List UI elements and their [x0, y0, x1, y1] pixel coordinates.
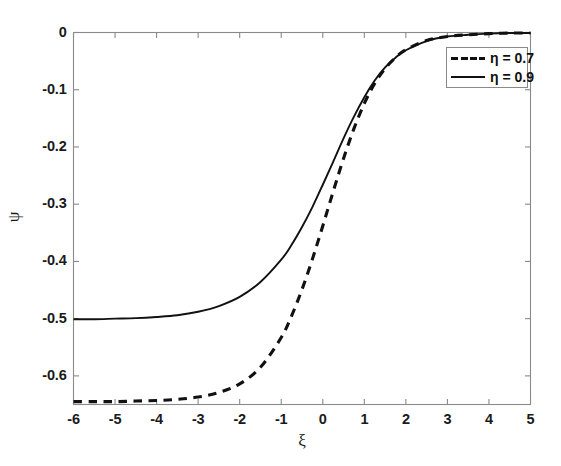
x-tick-label: 3: [429, 411, 465, 427]
legend: η = 0.7 η = 0.9: [446, 47, 528, 88]
figure-chart: -6-5-4-3-2-1012345 0-0.1-0.2-0.3-0.4-0.5…: [0, 0, 561, 466]
axes-frame: [74, 33, 531, 405]
x-tick-label: 0: [305, 411, 341, 427]
legend-label-eta-09: η = 0.9: [490, 69, 534, 85]
legend-label-eta-07: η = 0.7: [490, 50, 534, 66]
legend-swatch-solid: [451, 72, 485, 82]
x-tick-label: -6: [56, 411, 92, 427]
x-tick-label: 2: [388, 411, 424, 427]
y-axis-label: ψ: [4, 177, 24, 257]
x-tick-label: -2: [222, 411, 258, 427]
y-tick-label: -0.2: [2, 138, 67, 154]
series-line-dashed: [74, 33, 531, 402]
x-axis-label: ξ: [64, 431, 541, 451]
legend-item-eta-07: η = 0.7: [447, 48, 527, 67]
x-tick-label: -5: [97, 411, 133, 427]
x-tick-label: -1: [263, 411, 299, 427]
x-tick-label: -4: [139, 411, 175, 427]
y-tick-label: -0.1: [2, 81, 67, 97]
axis-ticks: [74, 33, 531, 405]
x-tick-label: -3: [180, 411, 216, 427]
y-tick-label: 0: [2, 24, 67, 40]
x-tick-label: 4: [471, 411, 507, 427]
x-tick-label: 1: [346, 411, 382, 427]
y-tick-label: -0.5: [2, 310, 67, 326]
legend-item-eta-09: η = 0.9: [447, 67, 527, 86]
y-tick-label: -0.6: [2, 367, 67, 383]
data-series: [74, 33, 531, 402]
x-tick-label: 5: [513, 411, 549, 427]
legend-swatch-dashed: [451, 53, 485, 63]
